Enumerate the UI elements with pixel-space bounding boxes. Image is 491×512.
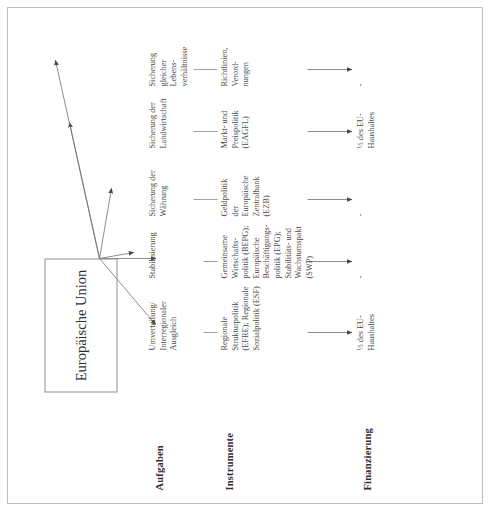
page-frame: Aufgaben Instrumente Finanzierung Europä… (7, 7, 483, 504)
task-4: Sicherung gleicher Lebens- verhältnisse (147, 12, 189, 86)
task-0: Umverteilung/ Interregionaler Ausgleich (147, 276, 179, 350)
task-2: Sicherung der Währung (147, 142, 168, 216)
center-node-eu: Europäische Union (44, 258, 117, 392)
diagram-canvas: Aufgaben Instrumente Finanzierung Europä… (7, 7, 483, 504)
financing-4: - (355, 16, 366, 86)
financing-1: - (355, 208, 366, 278)
financing-2: - (355, 146, 366, 216)
financing-3: ½ des EU- Haushaltes (355, 78, 376, 148)
row-label-aufgaben: Aufgaben (153, 445, 164, 490)
financing-0: ½ des EU- Haushaltes (355, 280, 376, 350)
diagram-rotor: Aufgaben Instrumente Finanzierung Europä… (7, 7, 483, 504)
center-node-label: Europäische Union (72, 269, 89, 381)
row-label-instrumente: Instrumente (223, 432, 234, 490)
instrument-4: Richtlinien, Verord- nungen (219, 0, 251, 86)
row-label-finanzierung: Finanzierung (361, 428, 372, 491)
